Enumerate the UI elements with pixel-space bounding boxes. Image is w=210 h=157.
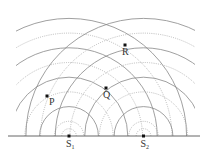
trough-arc-s1-4: [0, 63, 143, 136]
interference-diagram: S1S2 PQR: [0, 0, 210, 157]
source-s1-label: S1: [66, 138, 75, 150]
point-q-label: Q: [103, 89, 111, 100]
crest-arc-s1-3: [0, 48, 157, 136]
crest-arc-s2-3: [55, 48, 210, 136]
wavefronts: [0, 18, 210, 136]
labeled-points: PQR: [46, 44, 130, 108]
crest-arc-s2-4: [26, 18, 210, 136]
trough-arc-s2-3: [99, 92, 187, 136]
crest-arc-s1-4: [0, 18, 187, 136]
source-s2-label: S2: [141, 138, 150, 150]
trough-arc-s1-5: [0, 33, 172, 136]
point-r-label: R: [122, 46, 129, 57]
sources: S1S2: [66, 135, 149, 151]
point-p-label: P: [49, 96, 55, 107]
